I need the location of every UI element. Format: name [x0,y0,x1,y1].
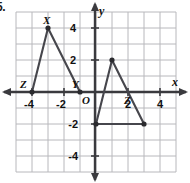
y-tick-label-2: 2 [70,54,76,66]
x-axis-arrow-left [2,88,11,96]
x-tick-label--2: -2 [56,98,66,110]
image-vertex-dot-bottom-right [141,121,146,126]
y-axis-label: y [97,4,105,18]
vertex-label-z-image: Z [123,94,131,106]
y-axis-arrow-up [91,2,99,11]
x-tick-label-4: 4 [157,98,164,110]
vertex-dot-z [29,89,34,94]
vertex-label-x: X [42,14,51,26]
y-axis-arrow-down [91,173,99,182]
x-axis-label: x [171,75,178,89]
image-vertex-dot-apex [109,57,114,62]
image-vertex-dot-bottom-left [93,121,98,126]
vertex-dot-x [45,25,50,30]
y-tick-label--4: -4 [68,150,79,162]
origin-label: O [82,94,90,106]
coordinate-plane-svg: x y -4 -2 2 4 4 2 -2 -4 O [0,0,190,183]
vertex-dot-y [77,89,82,94]
x-axis-arrow-right [179,88,188,96]
y-tick-label-4: 4 [70,22,77,34]
figure-container: 5. [0,0,190,183]
x-tick-label--4: -4 [24,98,35,110]
vertex-label-z: Z [19,78,27,90]
y-tick-label--2: -2 [68,118,78,130]
coordinate-plane: x y -4 -2 2 4 4 2 -2 -4 O [0,0,190,183]
